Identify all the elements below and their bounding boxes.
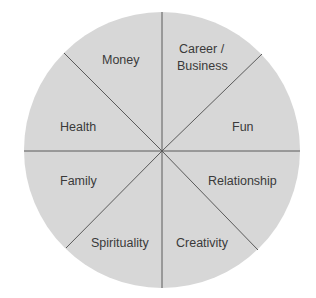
segment-label-spirituality: Spirituality bbox=[91, 236, 149, 250]
segment-label-money: Money bbox=[102, 53, 140, 67]
segment-label-health: Health bbox=[60, 120, 96, 134]
segment-label-creativity: Creativity bbox=[176, 236, 229, 250]
segment-label-family: Family bbox=[60, 174, 98, 188]
life-wheel-diagram: Money Career / Business Fun Relationship… bbox=[0, 0, 316, 298]
segment-label-fun: Fun bbox=[232, 120, 254, 134]
segment-label-career-line1: Career / bbox=[179, 42, 225, 56]
segment-label-career-line2: Business bbox=[177, 59, 228, 73]
segment-label-relationship: Relationship bbox=[208, 174, 277, 188]
